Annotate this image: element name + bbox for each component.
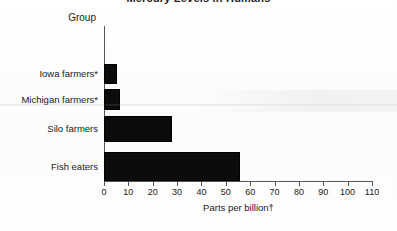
y-axis-group-header: Group <box>0 12 96 23</box>
scan-artifact-line-secondary <box>0 105 397 106</box>
bar-chart-figure: Mercury Levels in Humans Group 010203040… <box>0 0 397 231</box>
x-axis-line <box>104 181 373 182</box>
y-category-label: Michigan farmers* <box>0 94 98 105</box>
y-category-label: Fish eaters <box>0 161 98 172</box>
bar <box>104 116 172 142</box>
bar <box>104 64 117 84</box>
y-category-label: Silo farmers <box>0 123 98 134</box>
x-axis-label: Parts per billion† <box>104 202 373 213</box>
x-tick-label: 110 <box>357 186 387 198</box>
scan-shadow-gradient <box>197 90 397 112</box>
bar <box>104 152 240 181</box>
chart-title: Mercury Levels in Humans <box>0 0 397 4</box>
y-category-label: Iowa farmers* <box>0 68 98 79</box>
bar <box>104 89 120 110</box>
